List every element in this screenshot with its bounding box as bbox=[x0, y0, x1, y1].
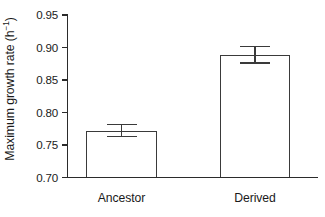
y-axis-tick-label: 0.70 bbox=[0, 173, 58, 183]
x-axis-category-label: Derived bbox=[195, 191, 315, 205]
error-bar-stem bbox=[121, 124, 122, 136]
y-axis-line bbox=[67, 14, 68, 178]
y-axis-tick-label: 0.85 bbox=[0, 75, 58, 85]
y-axis-tick bbox=[62, 144, 67, 145]
y-axis-tick bbox=[62, 112, 67, 113]
error-bar-cap-lower bbox=[107, 136, 137, 137]
error-bar-cap-upper bbox=[107, 124, 137, 125]
y-axis-tick bbox=[62, 177, 67, 178]
y-axis-tick bbox=[62, 79, 67, 80]
bar-chart-figure: Maximum growth rate (h−1) 0.950.900.850.… bbox=[0, 0, 325, 217]
y-axis-tick-label: 0.80 bbox=[0, 108, 58, 118]
bar bbox=[86, 131, 157, 178]
y-axis-title: Maximum growth rate (h−1) bbox=[2, 0, 18, 184]
bar bbox=[220, 55, 290, 177]
y-axis-tick bbox=[62, 14, 67, 15]
error-bar-cap-upper bbox=[240, 46, 270, 47]
y-axis-title-exponent: −1 bbox=[2, 21, 11, 30]
y-axis-tick-label: 0.75 bbox=[0, 140, 58, 150]
error-bar-stem bbox=[254, 47, 255, 63]
error-bar-cap-lower bbox=[240, 62, 270, 63]
x-axis-category-label: Ancestor bbox=[62, 191, 182, 205]
y-axis-tick bbox=[62, 47, 67, 48]
y-axis-tick-label: 0.90 bbox=[0, 43, 58, 53]
y-axis-tick-label: 0.95 bbox=[0, 10, 58, 20]
